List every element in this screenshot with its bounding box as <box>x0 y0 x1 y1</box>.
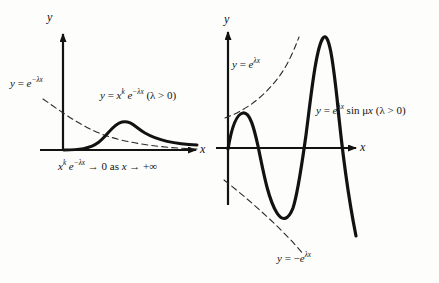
right-lower-envelope-curve <box>224 180 304 255</box>
right-upper-envelope-label: y = eλx <box>232 59 260 70</box>
left-x-axis-label: x <box>200 143 205 155</box>
left-main-curve <box>64 122 197 150</box>
left-y-axis-label: y <box>47 11 52 23</box>
figure-canvas <box>0 0 439 283</box>
right-main-curve-label: y = eλx sin μx (λ > 0) <box>316 105 406 116</box>
right-lower-envelope-label: y = −eλx <box>277 253 311 264</box>
right-x-axis-label: x <box>360 141 365 153</box>
left-panel-caption: xk e−λx → 0 as x → +∞ <box>58 161 157 172</box>
right-y-axis-label: y <box>224 13 229 25</box>
right-upper-envelope-curve <box>225 37 299 118</box>
left-main-curve-label: y = xk e−λx (λ > 0) <box>100 90 176 101</box>
left-envelope-label: y = e−λx <box>10 78 43 89</box>
math-figure: y x y = e−λx y = xk e−λx (λ > 0) xk e−λx… <box>0 0 439 283</box>
